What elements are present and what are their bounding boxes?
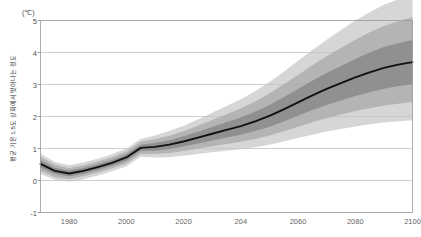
x-axis-tick-label: 2020: [175, 217, 192, 226]
x-axis-tick-label: 2080: [347, 217, 364, 226]
middle-band: [41, 17, 413, 179]
uncertainty-bands: [41, 0, 413, 182]
x-axis-tick-label: 2000: [118, 217, 135, 226]
x-axis-tick-label: 2060: [290, 217, 307, 226]
x-axis-tick-label: 1980: [61, 217, 78, 226]
x-axis-tick-label: 2100: [404, 217, 421, 226]
x-axis-tick-label: 204: [235, 217, 248, 226]
x-axis-tick-labels: 198020002020204206020802100: [0, 217, 416, 233]
